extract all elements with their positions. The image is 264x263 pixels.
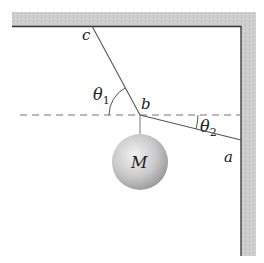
theta1-arc [109,88,125,115]
label-c: c [82,26,91,44]
right-wall [241,12,256,256]
diagram: c b a θ1 θ2 M [0,0,264,263]
label-mass: M [130,153,148,172]
ceiling [12,12,256,26]
label-b: b [141,95,151,113]
rope-ba [140,115,241,140]
label-theta1: θ1 [93,85,110,107]
label-a: a [224,148,233,166]
label-theta2: θ2 [200,117,217,139]
theta2-arc [196,115,198,129]
